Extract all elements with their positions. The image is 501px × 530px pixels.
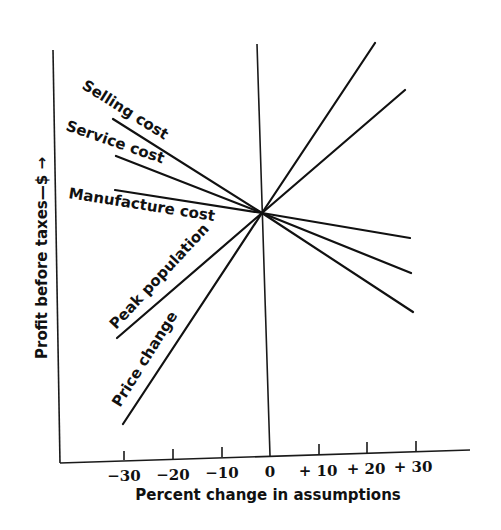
tick-label: −20 (156, 466, 189, 484)
tick-label: 0 (265, 463, 275, 481)
label-peak-population: Peak population (106, 220, 213, 333)
y-axis (53, 50, 60, 463)
label-manufacture-cost: Manufacture cost (67, 184, 216, 225)
x-axis-title: Percent change in assumptions (135, 486, 401, 504)
tick-label: −30 (107, 467, 140, 485)
sensitivity-chart: −30 −20 −10 0 + 10 + 20 + 30 Selling cos… (0, 0, 501, 530)
zero-line (257, 44, 270, 456)
tick-label: + 10 (299, 462, 338, 480)
tick-label: −10 (205, 464, 238, 482)
tick-label: + 20 (347, 460, 386, 478)
series-price-change (123, 43, 375, 424)
y-axis-title: Profit before taxes—$ → (33, 157, 51, 359)
x-tick-labels: −30 −20 −10 0 + 10 + 20 + 30 (107, 458, 432, 485)
tick-label: + 30 (394, 458, 433, 476)
